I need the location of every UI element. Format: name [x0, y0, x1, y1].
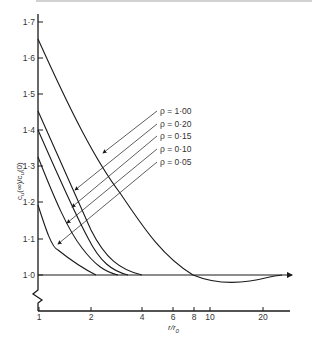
- y-tick-label: 1·4: [23, 125, 36, 135]
- curve-rho-0-05: [38, 205, 96, 275]
- legend-item-rho-0-15: ρ = 0·15: [160, 131, 192, 141]
- x-tick-label: 10: [205, 312, 215, 322]
- y-tick-label: 1·3: [23, 161, 36, 171]
- chart: 1·71·61·51·41·31·21·11·0 124681020 ρ = 1…: [0, 0, 312, 346]
- legend-item-rho-0-05: ρ = 0·05: [160, 157, 192, 167]
- x-tick-label: 8: [192, 312, 197, 322]
- x-tick-label: 1: [37, 312, 42, 322]
- x-axis: 124681020: [37, 307, 290, 322]
- x-axis-label: r/r0: [168, 323, 180, 334]
- curve-rho-0-20: [38, 111, 142, 275]
- x-tick-label: 20: [258, 312, 268, 322]
- legend-item-rho-0-20: ρ = 0·20: [160, 119, 192, 129]
- y-axis-label: cu(∞)/cu(0): [15, 162, 25, 200]
- y-tick-label: 1·0: [23, 270, 36, 280]
- x-tick-label: 2: [89, 312, 94, 322]
- y-tick-label: 1·1: [23, 234, 36, 244]
- y-tick-label: 1·5: [23, 89, 36, 99]
- legend-item-rho-0-10: ρ = 0·10: [160, 144, 192, 154]
- curve-rho-0-15: [38, 130, 128, 275]
- x-tick-label: 6: [171, 312, 176, 322]
- legend: ρ = 1·00 ρ = 0·20 ρ = 0·15 ρ = 0·10 ρ = …: [160, 106, 192, 167]
- y-tick-label: 1·2: [23, 197, 36, 207]
- curve-rho-0-10: [38, 157, 118, 275]
- legend-item-rho-1-00: ρ = 1·00: [160, 106, 192, 116]
- y-tick-label: 1·7: [23, 17, 36, 27]
- y-tick-label: 1·6: [23, 53, 36, 63]
- x-tick-label: 4: [140, 312, 145, 322]
